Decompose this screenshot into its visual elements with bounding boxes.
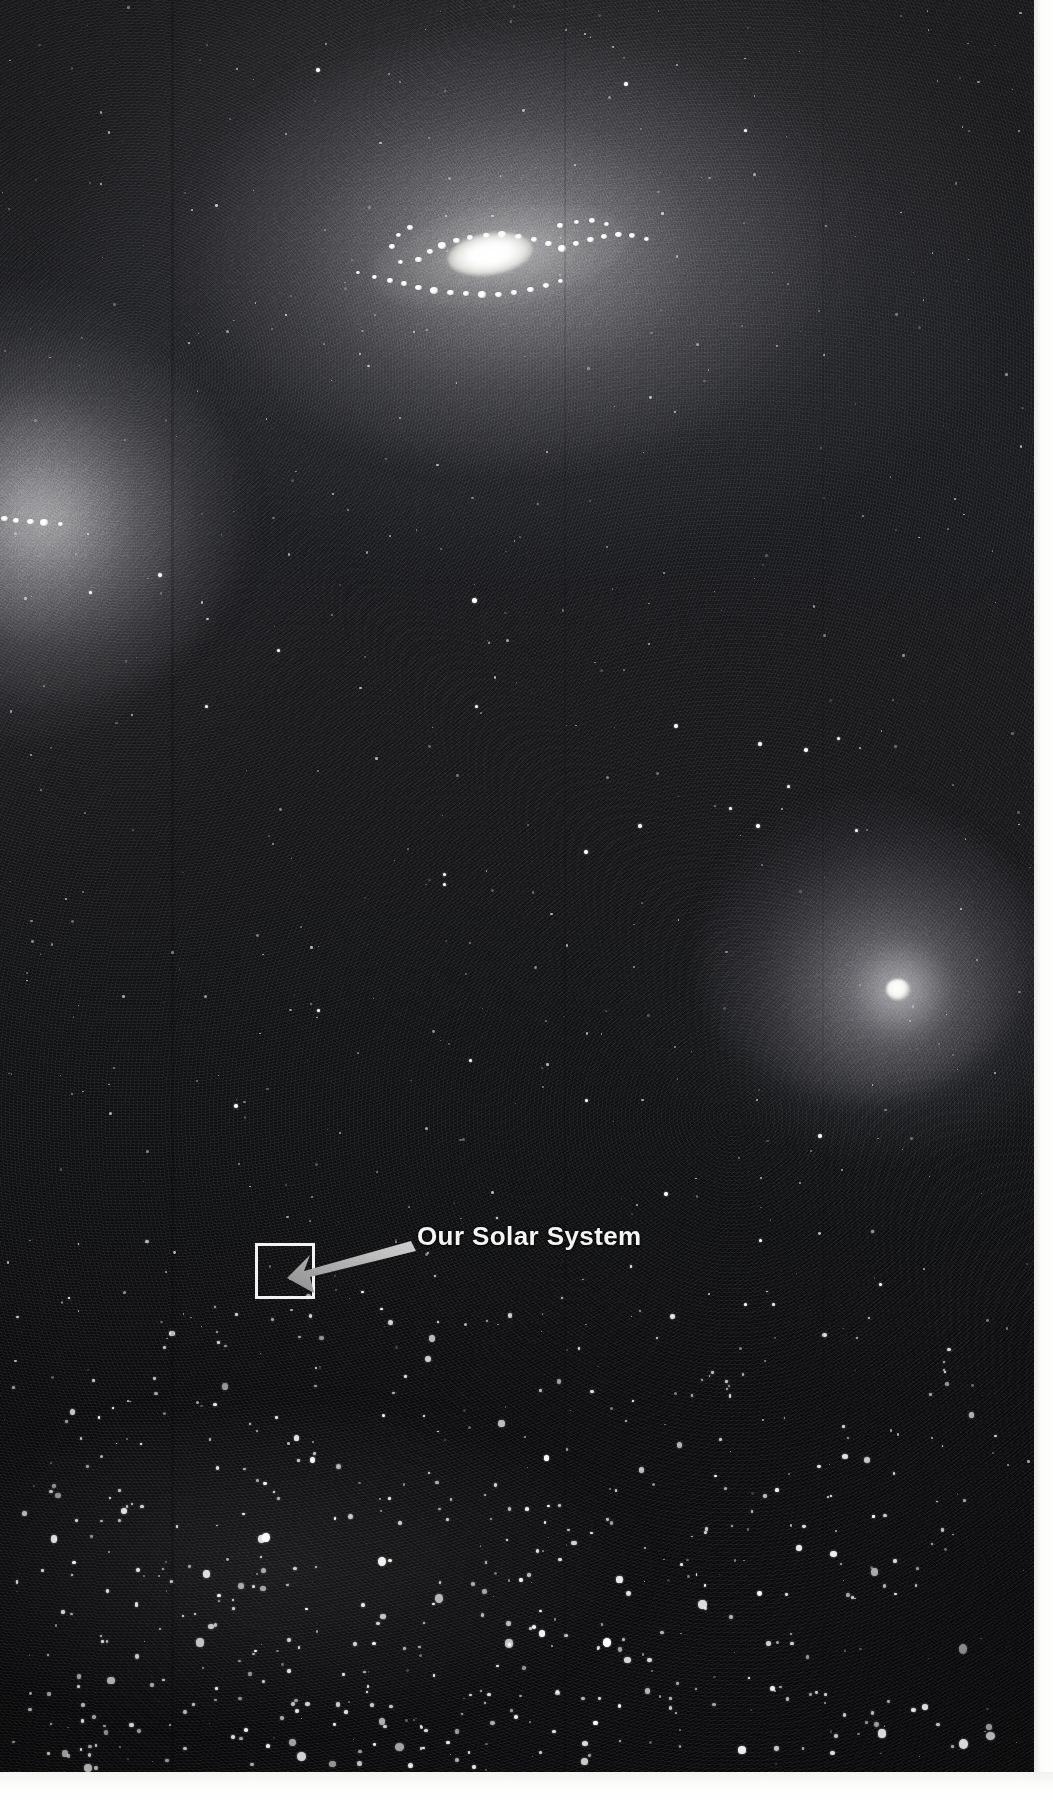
astronomy-photograph: Our Solar System: [0, 0, 1053, 1807]
photographic-plate: Our Solar System: [0, 0, 1034, 1772]
pointer-arrow-icon: [240, 1225, 440, 1305]
annotation-layer: Our Solar System: [0, 0, 1034, 1772]
solar-system-label: Our Solar System: [417, 1221, 642, 1252]
paper-border-bottom: [0, 1772, 1053, 1807]
paper-border-right: [1034, 0, 1053, 1807]
